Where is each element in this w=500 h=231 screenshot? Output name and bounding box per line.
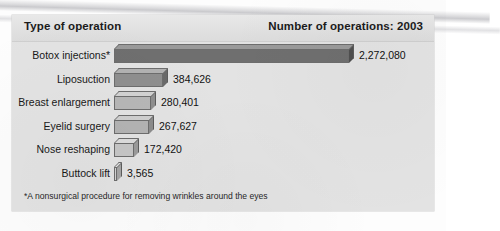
bar-3d bbox=[114, 162, 123, 184]
bar-3d bbox=[114, 68, 169, 90]
bar-top-face bbox=[114, 68, 168, 73]
bar-value-label: 384,626 bbox=[173, 68, 211, 90]
bar-3d bbox=[114, 115, 155, 137]
category-label: Breast enlargement bbox=[12, 91, 110, 113]
chart-row: Breast enlargement280,401 bbox=[12, 91, 434, 113]
bar-side-face bbox=[349, 44, 354, 63]
bar-front-face bbox=[114, 120, 149, 134]
bar-value-label: 267,627 bbox=[159, 115, 197, 137]
chart-panel: Type of operation Number of operations: … bbox=[12, 15, 434, 211]
category-label: Botox injections* bbox=[12, 44, 110, 66]
bar-side-face bbox=[163, 68, 168, 87]
chart-row: Botox injections*2,272,080 bbox=[12, 44, 434, 66]
chart-header: Type of operation Number of operations: … bbox=[12, 15, 434, 41]
bar-front-face bbox=[114, 73, 163, 87]
bar-chart-plot-area: Botox injections*2,272,080Liposuction384… bbox=[12, 42, 434, 187]
bar-top-face bbox=[114, 91, 156, 96]
category-label: Eyelid surgery bbox=[12, 115, 110, 137]
category-label: Buttock lift bbox=[12, 162, 110, 184]
chart-row: Buttock lift3,565 bbox=[12, 162, 434, 184]
bar-value-label: 2,272,080 bbox=[359, 44, 406, 66]
bar-side-face bbox=[117, 162, 122, 181]
category-label: Nose reshaping bbox=[12, 138, 110, 160]
bar-top-face bbox=[114, 44, 354, 49]
bar-3d bbox=[114, 44, 355, 66]
bar-side-face bbox=[151, 91, 156, 110]
header-left-title: Type of operation bbox=[24, 20, 121, 32]
bar-value-label: 280,401 bbox=[161, 91, 199, 113]
bar-3d bbox=[114, 91, 157, 113]
bar-side-face bbox=[149, 115, 154, 134]
category-label: Liposuction bbox=[12, 68, 110, 90]
bar-side-face bbox=[134, 138, 139, 157]
chart-row: Nose reshaping172,420 bbox=[12, 138, 434, 160]
chart-row: Eyelid surgery267,627 bbox=[12, 115, 434, 137]
bar-front-face bbox=[114, 49, 349, 63]
bar-3d bbox=[114, 138, 140, 160]
bar-front-face bbox=[114, 143, 134, 157]
bar-value-label: 3,565 bbox=[127, 162, 153, 184]
bar-top-face bbox=[114, 115, 154, 120]
chart-footnote: *A nonsurgical procedure for removing wr… bbox=[24, 191, 268, 201]
bar-front-face bbox=[114, 96, 151, 110]
bar-value-label: 172,420 bbox=[144, 138, 182, 160]
header-right-title: Number of operations: 2003 bbox=[268, 20, 423, 32]
chart-row: Liposuction384,626 bbox=[12, 68, 434, 90]
